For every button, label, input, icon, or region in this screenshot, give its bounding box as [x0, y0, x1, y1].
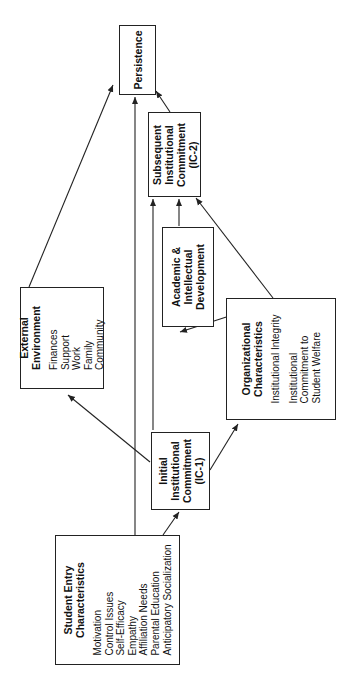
node-title: Organizational Characteristics	[240, 315, 264, 404]
node-persistence: Persistence	[119, 25, 156, 95]
node-title: Initial Institutional Commitment (IC-1)	[157, 439, 205, 503]
node-title: Subsequent Institutional Commitment (IC-…	[151, 122, 199, 186]
node-title: Student Entry Characteristics	[62, 544, 86, 655]
node-title: Academic & Intellectual Development	[170, 244, 206, 310]
node-title: External Environment	[18, 306, 42, 370]
node-initial-institutional-commitment: Initial Institutional Commitment (IC-1)	[151, 432, 210, 510]
edge-initial-ic-to-external	[68, 395, 150, 462]
edge-subsequent-ic-to-persistence	[156, 91, 170, 112]
node-title: Persistence	[132, 31, 144, 90]
node-external-environment: External Environment Finances Support Wo…	[20, 287, 104, 389]
node-items: Institutional Integrity Institutional Co…	[270, 315, 322, 404]
node-items: Motivation Control Issues Self-Efficacy …	[92, 544, 173, 655]
node-subsequent-institutional-commitment: Subsequent Institutional Commitment (IC-…	[148, 112, 201, 197]
edge-student-to-initial-ic	[163, 512, 179, 535]
node-academic-intellectual-development: Academic & Intellectual Development	[162, 227, 214, 327]
node-student-entry-characteristics: Student Entry Characteristics Motivation…	[55, 535, 180, 665]
edge-external-to-persistence	[29, 85, 113, 287]
node-organizational-characteristics: Organizational Characteristics Instituti…	[226, 298, 336, 420]
node-items: Finances Support Work Family Community	[48, 306, 106, 370]
edge-initial-ic-to-organizational	[210, 424, 238, 470]
